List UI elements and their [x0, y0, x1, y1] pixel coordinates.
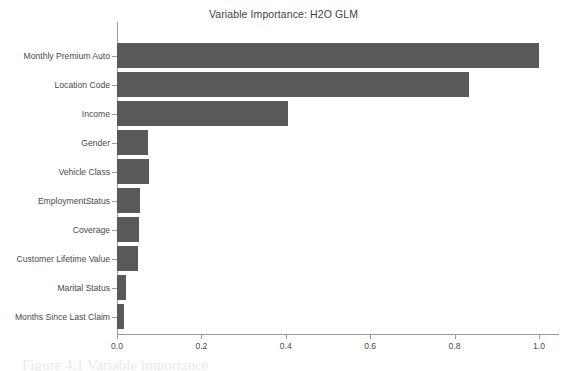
y-tick-mark: [112, 317, 117, 318]
bar-gender: [117, 130, 148, 155]
y-tick-mark: [112, 201, 117, 202]
x-axis-line: [117, 334, 559, 335]
bar-fill: [117, 217, 139, 242]
x-tick-mark: [539, 335, 540, 339]
x-tick-label-0.0: 0.0: [97, 341, 137, 351]
variable-importance-chart: Variable Importance: H2O GLM Monthly Pre…: [0, 0, 567, 371]
y-tick-mark: [112, 114, 117, 115]
y-tick-mark: [112, 172, 117, 173]
y-tick-label-income: Income: [82, 109, 110, 119]
bar-fill: [117, 159, 149, 184]
bar-fill: [117, 304, 124, 329]
bar-employmentstatus: [117, 188, 140, 213]
bar-fill: [117, 275, 126, 300]
y-tick-label-months-since-last-claim: Months Since Last Claim: [15, 312, 110, 322]
bar-fill: [117, 43, 539, 68]
x-tick-mark: [370, 335, 371, 339]
bar-income: [117, 101, 288, 126]
x-tick-label-0.4: 0.4: [266, 341, 306, 351]
x-tick-mark: [201, 335, 202, 339]
bar-fill: [117, 72, 469, 97]
bar-customer-lifetime-value: [117, 246, 138, 271]
x-tick-label-1.0: 1.0: [519, 341, 559, 351]
bar-vehicle-class: [117, 159, 149, 184]
x-tick-label-0.6: 0.6: [350, 341, 390, 351]
bar-fill: [117, 246, 138, 271]
bar-marital-status: [117, 275, 126, 300]
y-tick-label-coverage: Coverage: [73, 225, 110, 235]
y-tick-mark: [112, 143, 117, 144]
x-tick-mark: [455, 335, 456, 339]
bar-months-since-last-claim: [117, 304, 124, 329]
y-tick-label-customer-lifetime-value: Customer Lifetime Value: [17, 254, 110, 264]
y-tick-label-monthly-premium-auto: Monthly Premium Auto: [24, 51, 110, 61]
y-tick-mark: [112, 56, 117, 57]
y-tick-mark: [112, 85, 117, 86]
y-tick-label-gender: Gender: [81, 138, 110, 148]
y-tick-label-marital-status: Marital Status: [57, 283, 110, 293]
x-tick-mark: [286, 335, 287, 339]
bar-coverage: [117, 217, 139, 242]
bar-monthly-premium-auto: [117, 43, 539, 68]
y-tick-label-employmentstatus: EmploymentStatus: [38, 196, 110, 206]
y-tick-mark: [112, 230, 117, 231]
bar-location-code: [117, 72, 469, 97]
bar-fill: [117, 130, 148, 155]
x-tick-label-0.2: 0.2: [181, 341, 221, 351]
plot-area: [117, 22, 539, 334]
y-tick-mark: [112, 288, 117, 289]
page-caption-fragment: Figure 4.1 Variable importance: [22, 360, 208, 371]
bar-fill: [117, 101, 288, 126]
y-tick-label-location-code: Location Code: [55, 80, 110, 90]
x-tick-label-0.8: 0.8: [435, 341, 475, 351]
bar-fill: [117, 188, 140, 213]
x-tick-mark: [117, 335, 118, 339]
y-tick-mark: [112, 259, 117, 260]
y-tick-label-vehicle-class: Vehicle Class: [58, 167, 110, 177]
y-axis-tick-labels: Monthly Premium AutoLocation CodeIncomeG…: [0, 0, 110, 371]
